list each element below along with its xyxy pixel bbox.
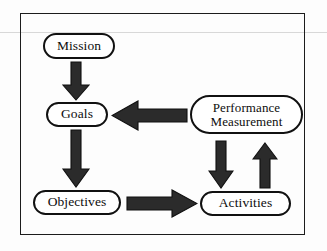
- node-goals[interactable]: Goals: [46, 102, 108, 127]
- node-activities-label: Activities: [219, 196, 273, 210]
- node-goals-label: Goals: [61, 107, 93, 121]
- node-activities[interactable]: Activities: [200, 191, 291, 216]
- node-performance-measurement-label: Performance Measurement: [211, 101, 283, 129]
- node-performance-measurement-label-line1: Performance: [211, 101, 283, 115]
- node-objectives-label: Objectives: [48, 195, 107, 209]
- node-performance-measurement[interactable]: Performance Measurement: [190, 95, 303, 134]
- node-objectives[interactable]: Objectives: [33, 190, 121, 215]
- scanned-figure-page: Mission Goals Objectives Performance Mea…: [0, 0, 327, 251]
- arrow-down-goals-to-objectives-icon: [61, 129, 91, 188]
- arrow-up-activities-to-performance-measurement-icon: [252, 142, 278, 189]
- arrow-left-performance-measurement-to-goals-icon: [111, 100, 188, 131]
- node-mission[interactable]: Mission: [43, 33, 115, 59]
- arrow-right-objectives-to-activities-icon: [126, 189, 198, 218]
- node-mission-label: Mission: [57, 39, 101, 53]
- arrow-down-performance-measurement-to-activities-icon: [208, 140, 234, 189]
- node-performance-measurement-label-line2: Measurement: [211, 115, 283, 129]
- arrow-down-mission-to-goals-icon: [61, 61, 91, 101]
